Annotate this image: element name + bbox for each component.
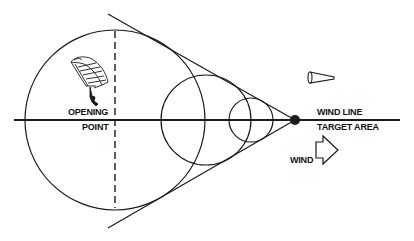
- opening-label: OPENING: [68, 107, 108, 117]
- parachute-icon: [71, 57, 108, 106]
- wind-cone-diagram: [0, 0, 414, 241]
- target-area-label: TARGET AREA: [317, 122, 379, 132]
- wind-label: WIND: [290, 155, 313, 165]
- target-dot-icon: [290, 115, 300, 125]
- windsock-icon: [308, 72, 334, 83]
- wind-line-label: WIND LINE: [317, 107, 362, 117]
- wind-arrow-icon: [316, 136, 338, 164]
- lower-tangent-line: [108, 120, 295, 228]
- point-label: POINT: [82, 122, 109, 132]
- upper-tangent-line: [108, 14, 295, 120]
